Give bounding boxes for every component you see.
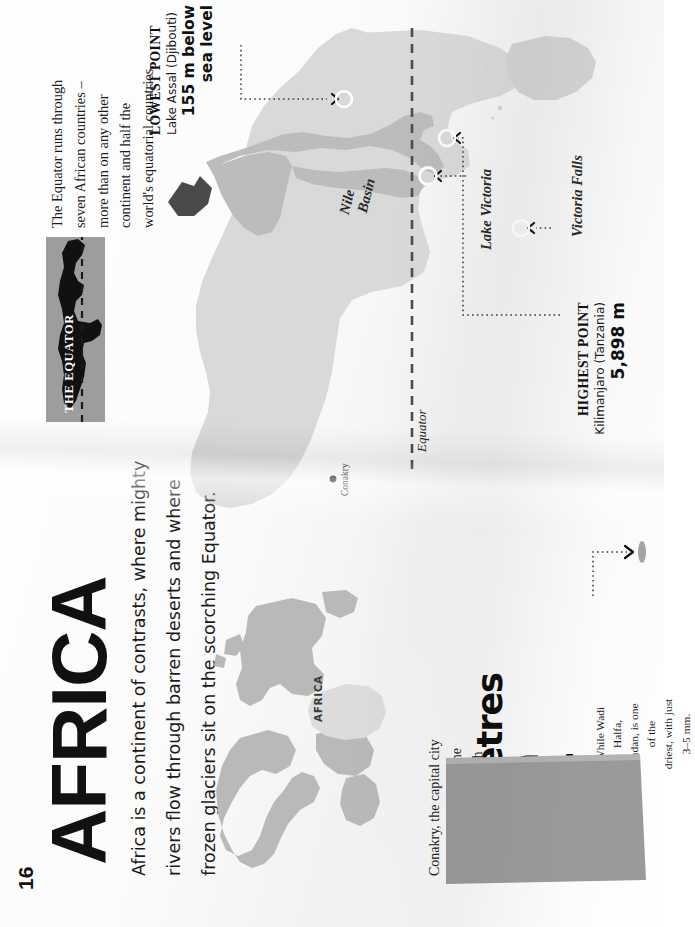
equator-note: The Equator runs through seven African c…	[46, 18, 160, 228]
lowest-point-value-line-2: sea level	[199, 5, 217, 135]
label-equator: Equator	[414, 409, 430, 452]
highest-point-value: 5,898 m	[609, 302, 629, 452]
equator-note-line-2: seven African countries –	[69, 18, 92, 228]
equator-shape-fragment	[160, 168, 230, 238]
marker-kilimanjaro	[439, 130, 455, 146]
intro-line-2: rivers flow through barren deserts and w…	[157, 479, 193, 876]
leader-wadi-halfa	[593, 552, 627, 596]
lowest-point-place: Lake Assal (Djibouti)	[165, 5, 179, 135]
marker-victoria-falls	[513, 220, 529, 236]
leader-lowest-point	[241, 45, 327, 99]
dry-rain-gauge-sliver	[638, 541, 646, 563]
intro-line-1: Africa is a continent of contrasts, wher…	[122, 461, 158, 876]
highest-point-place: Kilimanjaro (Tanzania)	[593, 302, 607, 452]
equator-note-line-4: continent and half the	[114, 18, 137, 228]
lowest-point-kicker: LOWEST POINT	[148, 5, 164, 135]
world-map-inset	[196, 588, 396, 888]
label-victoria-falls: Victoria Falls	[569, 155, 586, 237]
page-number: 16	[14, 867, 38, 890]
lowest-point-value-line-1: 155 m below	[181, 5, 199, 135]
lowest-point-callout: LOWEST POINT Lake Assal (Djibouti) 155 m…	[148, 5, 217, 135]
equator-note-line-3: more than on any other	[92, 18, 115, 228]
intro-paragraph: Africa is a continent of contrasts, wher…	[122, 461, 158, 876]
equator-inset: THE EQUATOR	[38, 237, 113, 422]
highest-point-callout: HIGHEST POINT Kilimanjaro (Tanzania) 5,8…	[576, 302, 629, 452]
marker-conakry	[330, 476, 337, 483]
equator-note-line-1: The Equator runs through	[46, 18, 69, 228]
dry-stat-callout	[575, 500, 695, 610]
page-title: AFRICA	[42, 576, 116, 865]
label-conakry: Conakry	[340, 463, 350, 496]
equator-band-label: THE EQUATOR	[62, 314, 77, 413]
highest-point-kicker: HIGHEST POINT	[576, 302, 592, 452]
rain-gauge-block	[440, 752, 670, 927]
leader-highest-point	[458, 138, 560, 315]
world-inset-label: AFRICA	[312, 675, 324, 722]
label-lake-victoria: Lake Victoria	[478, 169, 495, 250]
